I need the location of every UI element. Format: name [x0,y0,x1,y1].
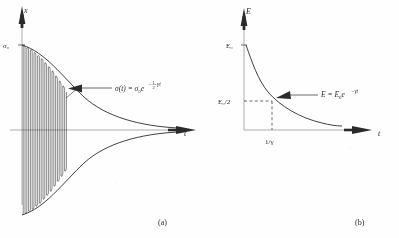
panel-b-caption: (b) [355,218,365,227]
panel-a-equation: σ(t) = σ₀e − 1 2 γt [115,80,161,93]
panel-a-equation-exponent-tail: γt [157,81,161,87]
panel-b-x-tick-tau-label: 1/γ [265,138,274,146]
panel-a-y-axis-arrow-shaft [21,14,24,28]
panel-b-y-tick-top-label: E₀ [226,42,233,50]
panel-b-decay-curve [246,45,342,126]
panel-b-leader-arrow [276,91,291,99]
panel-a-equation-exponent-denominator: 2 [153,85,155,90]
panel-b-y-axis-label: E [245,7,251,16]
panel-b-x-axis-arrow-shaft [344,129,358,132]
panel-a-equation-base: σ(t) = σ₀e [115,84,145,93]
panel-a-equation-exponent-numerator: 1 [153,80,155,85]
panel-a-x-axis-arrow-shaft [168,129,182,132]
figure-damped-oscillator: x t σ₀ σ(t) = σ₀e − 1 2 γt (a) [0,0,399,238]
panel-a-caption: (a) [158,218,167,227]
panel-b-equation-exponent: −γt [351,88,359,94]
panel-a-y-tick-label: σ₀ [3,42,10,50]
panel-b-x-axis-label: t [378,129,381,138]
panel-b-y-axis-arrow-shaft [243,16,246,30]
panel-a: x t σ₀ σ(t) = σ₀e − 1 2 γt (a) [3,6,196,227]
panel-a-y-axis-label: x [23,6,28,15]
panel-b-equation-base: E = E₀e [320,90,346,99]
panel-a-equation-exponent-sign: − [149,81,152,87]
figure-canvas: x t σ₀ σ(t) = σ₀e − 1 2 γt (a) [0,0,399,238]
panel-b-y-tick-half-label: E₀/2 [218,98,231,106]
panel-a-lower-envelope [22,132,178,215]
panel-b-equation: E = E₀e −γt [320,88,359,100]
panel-a-leader-arrow [68,85,82,93]
panel-b: E t E₀ E₀/2 1/γ E = E₀e −γt (b) [218,7,381,227]
